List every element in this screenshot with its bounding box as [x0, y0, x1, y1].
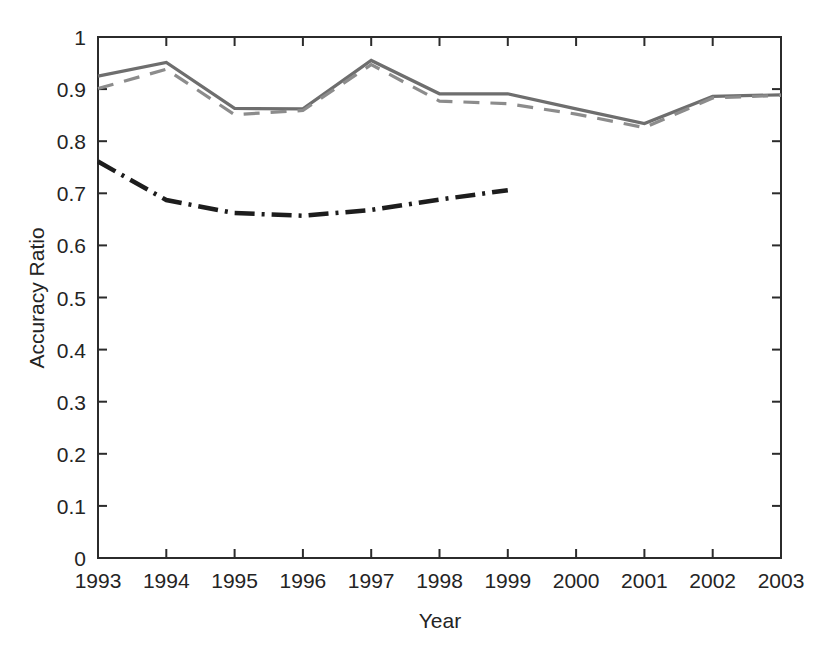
x-tick-label: 1999	[484, 569, 531, 592]
x-axis-tick-labels: 1993199419951996199719981999200020012002…	[75, 569, 805, 592]
x-tick-label: 1998	[416, 569, 463, 592]
chart-figure: 00.10.20.30.40.50.60.70.80.91 1993199419…	[0, 0, 828, 649]
accuracy-ratio-line-chart: 00.10.20.30.40.50.60.70.80.91 1993199419…	[0, 0, 828, 649]
y-axis-title: Accuracy Ratio	[25, 227, 48, 368]
y-tick-label: 0.2	[57, 443, 86, 466]
chart-background	[0, 0, 828, 649]
x-tick-label: 1996	[280, 569, 327, 592]
y-tick-label: 0.8	[57, 130, 86, 153]
x-axis-title: Year	[419, 609, 461, 632]
x-tick-label: 2000	[553, 569, 600, 592]
y-tick-label: 0.3	[57, 391, 86, 414]
x-tick-label: 1997	[348, 569, 395, 592]
x-tick-label: 1995	[211, 569, 258, 592]
x-tick-label: 1994	[143, 569, 190, 592]
x-tick-label: 2003	[758, 569, 805, 592]
y-tick-label: 0.5	[57, 287, 86, 310]
y-tick-label: 0.1	[57, 495, 86, 518]
x-tick-label: 1993	[75, 569, 122, 592]
x-tick-label: 2001	[621, 569, 668, 592]
y-tick-label: 0.4	[57, 339, 87, 362]
y-tick-label: 0	[74, 547, 86, 570]
y-tick-label: 0.9	[57, 78, 86, 101]
y-tick-label: 1	[74, 26, 86, 49]
y-tick-label: 0.7	[57, 182, 86, 205]
y-tick-label: 0.6	[57, 234, 86, 257]
x-tick-label: 2002	[689, 569, 736, 592]
